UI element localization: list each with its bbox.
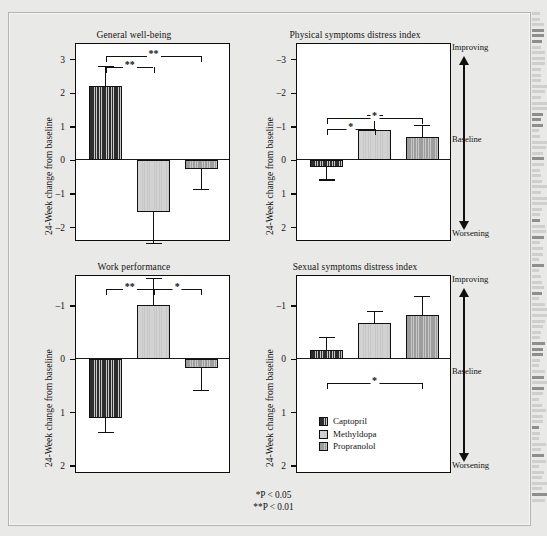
bar-captopril bbox=[310, 350, 343, 359]
error-bar-cap bbox=[367, 311, 383, 312]
error-bar-cap bbox=[414, 296, 430, 297]
arrow-down-icon bbox=[459, 453, 469, 462]
text-line bbox=[532, 96, 541, 99]
adjacent-text-column bbox=[531, 12, 547, 524]
error-bar-cap bbox=[414, 125, 430, 126]
significance-bracket-tick bbox=[106, 56, 107, 62]
text-line bbox=[532, 325, 543, 328]
text-line bbox=[532, 292, 542, 295]
text-line bbox=[532, 236, 544, 239]
text-line bbox=[532, 202, 547, 205]
text-line bbox=[532, 169, 540, 172]
text-line bbox=[532, 225, 545, 228]
text-line bbox=[532, 46, 541, 49]
panel-title: General well-being bbox=[34, 30, 234, 40]
y-axis-tick-label: 1 bbox=[281, 189, 286, 199]
y-axis-tick bbox=[291, 160, 296, 161]
y-axis-tick bbox=[291, 227, 296, 228]
y-axis-tick-label: –1 bbox=[277, 122, 287, 132]
significance-bracket-tick bbox=[154, 289, 155, 295]
bar-propranolol bbox=[185, 160, 218, 169]
y-axis-tick-label: –1 bbox=[56, 189, 66, 199]
text-line bbox=[532, 269, 539, 272]
y-axis-label: 24-Week change from baseline bbox=[265, 349, 275, 467]
y-axis-tick bbox=[291, 93, 296, 94]
text-line bbox=[532, 448, 541, 451]
text-line bbox=[532, 62, 545, 65]
text-line bbox=[532, 219, 540, 222]
scale-label-baseline: Baseline bbox=[452, 366, 482, 376]
y-axis-tick bbox=[70, 227, 75, 228]
panel-title: Work performance bbox=[34, 262, 234, 272]
y-axis-tick-label: –2 bbox=[56, 223, 66, 233]
text-line bbox=[532, 247, 543, 250]
text-line bbox=[532, 281, 542, 284]
text-line bbox=[532, 208, 542, 211]
double-arrow-shaft bbox=[463, 296, 465, 454]
text-line bbox=[532, 90, 545, 93]
pvalue-note: *P < 0.05 **P < 0.01 bbox=[0, 489, 547, 513]
text-line bbox=[532, 51, 545, 54]
pvalue-005: *P < 0.05 bbox=[0, 489, 547, 501]
text-line bbox=[532, 152, 543, 155]
text-line bbox=[532, 392, 543, 395]
panel-title: Physical symptoms distress index bbox=[255, 30, 455, 40]
error-bar-cap bbox=[193, 189, 209, 190]
error-bar bbox=[153, 212, 154, 244]
text-line bbox=[532, 381, 547, 384]
significance-stars: * bbox=[346, 122, 355, 132]
significance-bracket-tick bbox=[154, 67, 155, 73]
text-line bbox=[532, 253, 543, 256]
figure-root: General well-being ****3210–1–224-Week c… bbox=[0, 0, 547, 536]
text-line bbox=[532, 74, 541, 77]
text-line bbox=[532, 426, 539, 429]
y-axis-tick-label: 1 bbox=[60, 122, 65, 132]
bar-captopril bbox=[89, 359, 122, 418]
y-axis-tick bbox=[70, 59, 75, 60]
error-bar bbox=[201, 169, 202, 189]
text-line bbox=[532, 12, 540, 15]
y-axis-tick bbox=[291, 59, 296, 60]
text-line bbox=[532, 465, 539, 468]
panel-physical-symptoms: Physical symptoms distress index **–3–2–… bbox=[255, 30, 455, 245]
legend-label: Propranolol bbox=[333, 441, 376, 451]
text-line bbox=[532, 460, 546, 463]
y-axis-tick bbox=[291, 193, 296, 194]
error-bar bbox=[422, 296, 423, 315]
text-line bbox=[532, 482, 547, 485]
y-axis-tick bbox=[70, 305, 75, 306]
text-line bbox=[532, 141, 547, 144]
y-axis-label: 24-Week change from baseline bbox=[265, 117, 275, 235]
text-line bbox=[532, 314, 547, 317]
text-line bbox=[532, 102, 547, 105]
y-axis-tick bbox=[70, 126, 75, 127]
text-line bbox=[532, 107, 547, 110]
significance-stars: ** bbox=[123, 282, 137, 292]
error-bar bbox=[422, 126, 423, 138]
significance-stars: * bbox=[370, 376, 379, 386]
significance-bracket-tick bbox=[201, 289, 202, 295]
text-line bbox=[532, 454, 544, 457]
text-line bbox=[532, 420, 543, 423]
text-line bbox=[532, 40, 542, 43]
text-line bbox=[532, 264, 544, 267]
error-bar bbox=[326, 337, 327, 349]
error-bar bbox=[201, 368, 202, 390]
panel-general-well-being: General well-being ****3210–1–224-Week c… bbox=[34, 30, 234, 245]
error-bar-cap bbox=[146, 278, 162, 279]
text-line bbox=[532, 370, 545, 373]
legend-label: Captopril bbox=[333, 416, 367, 426]
text-line bbox=[532, 118, 541, 121]
text-line bbox=[532, 471, 544, 474]
error-bar-cap bbox=[319, 179, 335, 180]
text-line bbox=[532, 443, 546, 446]
bar-propranolol bbox=[185, 359, 218, 369]
bar-captopril bbox=[310, 160, 343, 167]
y-axis-tick-label: 0 bbox=[281, 155, 286, 165]
scale-label-worsening: Worsening bbox=[452, 228, 489, 238]
y-axis-tick bbox=[70, 160, 75, 161]
text-line bbox=[532, 57, 545, 60]
arrow-up-icon bbox=[459, 288, 469, 297]
text-line bbox=[532, 230, 546, 233]
error-bar-cap bbox=[146, 243, 162, 244]
